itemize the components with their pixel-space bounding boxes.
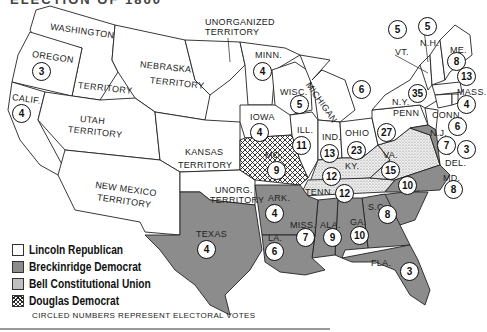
ev-minnesota: 4	[253, 62, 272, 81]
ev-michigan: 6	[352, 80, 371, 99]
ev-missouri: 9	[267, 161, 286, 180]
label-pennsylvania: PENN	[393, 108, 419, 118]
label-unorganized: UNORGANIZED	[205, 17, 275, 27]
label-unorg-territory: TERRITORY	[210, 195, 264, 205]
legend-item-douglas: Douglas Democrat	[12, 292, 172, 309]
ev-oregon: 3	[32, 62, 51, 81]
ev-indiana: 13	[320, 144, 339, 163]
label-iowa: IOWA	[250, 112, 275, 122]
ev-georgia: 10	[350, 226, 369, 245]
ev-maryland: 8	[444, 180, 463, 199]
ev-new-york: 35	[408, 84, 427, 103]
label-kansas: KANSAS	[185, 147, 223, 157]
label-new-hampshire: N.H.	[420, 38, 439, 48]
ev-california: 4	[12, 104, 31, 123]
legend-item-lincoln: Lincoln Republican	[12, 241, 172, 258]
label-unorg: UNORG.	[215, 185, 253, 195]
label-unorganized-territory: TERRITORY	[205, 27, 259, 37]
swatch-lincoln	[12, 244, 24, 256]
bottom-rule	[0, 328, 330, 330]
legend-label: Lincoln Republican	[29, 243, 123, 257]
ev-vermont: 5	[388, 20, 407, 39]
utah-territory	[38, 92, 160, 160]
ev-new-hampshire: 5	[418, 17, 437, 36]
ev-delaware: 3	[457, 140, 476, 159]
label-kansas-territory: TERRITORY	[178, 160, 232, 170]
ev-kentucky: 12	[322, 167, 341, 186]
ev-louisiana: 6	[265, 242, 284, 261]
ev-iowa: 4	[250, 123, 269, 142]
label-arkansas: ARK.	[268, 193, 290, 203]
label-kentucky: KY.	[345, 161, 359, 171]
ev-massachusetts: 13	[457, 67, 476, 86]
ev-arkansas: 4	[265, 204, 284, 223]
state-connecticut	[435, 94, 452, 108]
label-minnesota: MINN.	[255, 50, 282, 60]
ev-wisconsin: 5	[290, 95, 309, 114]
ev-virginia: 15	[381, 161, 400, 180]
ev-texas: 4	[197, 240, 216, 259]
label-tennessee: TENN.	[305, 187, 334, 197]
label-new-york: N.Y.	[392, 97, 410, 107]
label-indiana: IND.	[322, 132, 341, 142]
legend-label: Douglas Democrat	[29, 294, 119, 308]
swatch-douglas	[12, 295, 24, 307]
label-virginia: VA.	[383, 150, 398, 160]
ev-alabama: 9	[323, 228, 342, 247]
ev-rhode-island: 4	[457, 95, 476, 114]
ev-florida: 3	[400, 262, 419, 281]
ev-mississippi: 7	[296, 228, 315, 247]
legend-label: Bell Constitutional Union	[29, 277, 151, 291]
ev-tennessee: 12	[335, 184, 354, 203]
ev-connecticut: 6	[448, 117, 467, 136]
label-florida: FLA.	[371, 258, 391, 268]
label-vermont: VT.	[395, 47, 409, 57]
label-texas: TEXAS	[196, 229, 227, 239]
ev-south-carolina: 8	[378, 205, 397, 224]
label-ohio: OHIO	[345, 128, 369, 138]
map-legend: Lincoln Republican Breckinridge Democrat…	[12, 241, 172, 309]
swatch-bell	[12, 278, 24, 290]
ev-north-carolina: 10	[398, 176, 417, 195]
ev-ohio: 23	[347, 141, 366, 160]
legend-item-bell: Bell Constitutional Union	[12, 275, 172, 292]
ev-new-jersey: 7	[437, 136, 456, 155]
legend-label: Breckinridge Democrat	[29, 260, 141, 274]
legend-item-breckinridge: Breckinridge Democrat	[12, 258, 172, 275]
label-missouri: MO.	[265, 150, 283, 160]
label-delaware: DEL.	[445, 158, 466, 168]
legend-note: CIRCLED NUMBERS REPRESENT ELECTORAL VOTE…	[32, 311, 255, 321]
ev-pennsylvania: 27	[377, 123, 396, 142]
label-illinois: ILL.	[297, 125, 313, 135]
swatch-breckinridge	[12, 261, 24, 273]
ev-illinois: 11	[292, 136, 311, 155]
